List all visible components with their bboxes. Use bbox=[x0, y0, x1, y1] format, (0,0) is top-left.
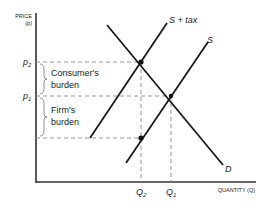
consumer-burden-brace bbox=[40, 64, 47, 94]
original-equilibrium-point bbox=[169, 94, 173, 98]
seller-price-point bbox=[138, 135, 143, 140]
firm-burden-label-2: burden bbox=[51, 117, 79, 127]
q2-label: Q2 bbox=[136, 187, 147, 198]
consumer-burden-label-2: burden bbox=[51, 80, 79, 90]
tax-equilibrium-point bbox=[138, 59, 143, 64]
consumer-burden-label-1: Consumer's bbox=[51, 68, 99, 78]
p1-label: p1 bbox=[22, 91, 31, 102]
firm-burden-label-1: Firm's bbox=[51, 105, 76, 115]
demand-label: D bbox=[225, 164, 232, 174]
p2-label: p2 bbox=[22, 57, 32, 68]
y-axis-label: PRICE bbox=[15, 13, 32, 19]
y-axis-symbol: (p) bbox=[25, 20, 32, 26]
x-axis-label: QUANTITY (Q) bbox=[218, 187, 255, 193]
supply-curve bbox=[126, 42, 208, 163]
tax-incidence-diagram: PRICE (p) p2 p1 Consumer's burden Firm's… bbox=[0, 0, 267, 205]
supply-label: S bbox=[207, 35, 213, 45]
firm-burden-brace bbox=[40, 98, 47, 136]
q1-label: Q1 bbox=[166, 187, 176, 198]
supply-tax-label: S + tax bbox=[169, 15, 198, 25]
